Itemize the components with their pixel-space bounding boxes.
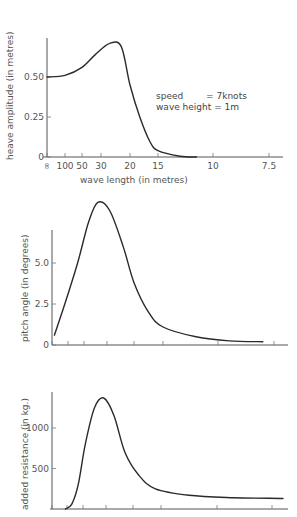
x-ticks: [52, 505, 272, 509]
annotation-speed: speed = 7knots: [156, 91, 247, 101]
y-tick-label: 0: [43, 340, 49, 350]
chart-resistance: 5001000 added resistance (in kg.): [20, 392, 288, 510]
y-tick-label: 500: [32, 464, 49, 474]
y-tick-label: 5.0: [35, 258, 50, 268]
x-ticks: ∞10050302015107.5: [42, 153, 276, 171]
y-axis-label: heave amplitude (in metres): [5, 32, 15, 160]
y-ticks: 02.55.0: [35, 258, 56, 350]
y-tick-label: 2.5: [35, 299, 49, 309]
x-tick-label: 20: [124, 161, 136, 171]
x-tick-label: 50: [76, 161, 88, 171]
x-tick-label: 30: [95, 161, 107, 171]
y-axis-label: added resistance (in kg.): [20, 398, 30, 510]
chart-heave: 00.250.50 ∞10050302015107.5 heave amplit…: [5, 32, 283, 185]
x-tick-label: 10: [207, 161, 219, 171]
y-tick-label: 0.25: [24, 112, 44, 122]
x-tick-label: 15: [152, 161, 163, 171]
y-tick-label: 0: [38, 152, 44, 162]
pitch-curve: [54, 202, 262, 342]
resistance-curve: [66, 398, 284, 509]
chart-canvas: 00.250.50 ∞10050302015107.5 heave amplit…: [0, 0, 297, 517]
x-axis-label: wave length (in metres): [80, 175, 188, 185]
y-tick-label: 0.50: [24, 72, 44, 82]
x-tick-label: 100: [56, 161, 73, 171]
y-axis-label: pitch angle (in degrees): [20, 235, 30, 342]
annotation-wave-height: wave height = 1m: [156, 102, 239, 112]
x-tick-label: 7.5: [262, 161, 276, 171]
x-tick-label: ∞: [42, 162, 52, 170]
chart-pitch: 02.55.0 pitch angle (in degrees): [20, 202, 288, 350]
